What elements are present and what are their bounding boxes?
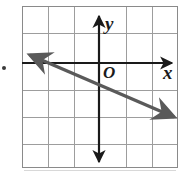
- coordinate-plane-svg: [0, 0, 186, 178]
- x-axis-label: x: [163, 63, 173, 82]
- origin-label: O: [103, 64, 115, 81]
- y-axis-label: y: [105, 14, 113, 33]
- coordinate-plane-figure: y x O: [0, 0, 186, 178]
